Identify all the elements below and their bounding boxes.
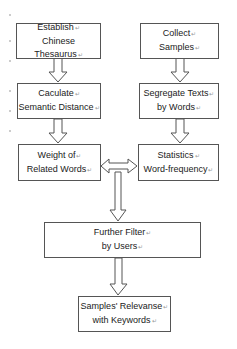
node-label-line: Caculate↵	[38, 87, 80, 101]
node-establish: Establish↵ Chinese Thesaurus↵	[16, 23, 101, 59]
arrow-filter-to-relevance	[110, 258, 127, 295]
node-label-line: Related Words↵	[27, 163, 92, 177]
node-weight: Weight of↵ Related Words↵	[18, 144, 101, 181]
node-label-line: Segregate Texts↵	[144, 87, 215, 101]
node-label-line: Statistics↵	[157, 149, 199, 163]
node-relevance: Samples' Relevanse↵ with Keywords↵	[78, 296, 171, 332]
node-segregate: Segregate Texts↵ by Words↵	[139, 83, 219, 119]
node-label-line: Establish↵	[37, 21, 80, 35]
arrow-to-filter	[110, 172, 126, 221]
node-label-line: Samples' Relevanse↵	[81, 300, 169, 314]
arrow-collect-to-segregate	[171, 58, 189, 82]
node-label-line: Samples↵	[159, 41, 200, 55]
node-label-line: Chinese Thesaurus↵	[17, 35, 100, 62]
node-label-line: Collect↵	[163, 27, 197, 41]
node-label-line: by Words↵	[157, 101, 201, 115]
node-calculate: Caculate↵ Semantic Distance↵	[17, 83, 101, 119]
node-filter: Further Filter↵ by Users↵	[44, 222, 201, 258]
node-label-line: Weight of↵	[38, 149, 82, 163]
node-label-line: Further Filter↵	[94, 226, 152, 240]
node-label-line: Semantic Distance↵	[18, 101, 99, 115]
node-collect: Collect↵ Samples↵	[140, 23, 219, 59]
node-statistics: Statistics↵ Word-frequency↵	[138, 144, 219, 181]
arrow-establish-to-calculate	[49, 58, 67, 82]
double-arrow-weight-statistics	[101, 159, 137, 173]
arrow-calculate-to-weight	[49, 119, 67, 143]
node-label-line: Word-frequency↵	[144, 163, 214, 177]
arrow-segregate-to-statistics	[171, 119, 189, 143]
node-label-line: with Keywords↵	[92, 314, 156, 328]
node-label-line: by Users↵	[102, 240, 144, 254]
